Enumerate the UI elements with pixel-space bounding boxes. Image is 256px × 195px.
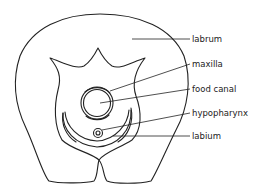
mouthparts-cross-section-diagram bbox=[0, 0, 256, 195]
label-hypopharynx: hypopharynx bbox=[192, 108, 248, 118]
hypopharynx-outer bbox=[94, 129, 103, 138]
label-food-canal: food canal bbox=[192, 84, 236, 94]
food-canal-inner bbox=[84, 90, 111, 117]
label-maxilla: maxilla bbox=[192, 59, 223, 69]
leader-food-canal bbox=[100, 89, 190, 103]
leader-maxilla bbox=[110, 64, 190, 91]
hypopharynx-inner bbox=[96, 131, 100, 135]
label-labium: labium bbox=[192, 131, 221, 141]
labium-outline bbox=[50, 48, 145, 160]
label-labrum: labrum bbox=[192, 34, 222, 44]
